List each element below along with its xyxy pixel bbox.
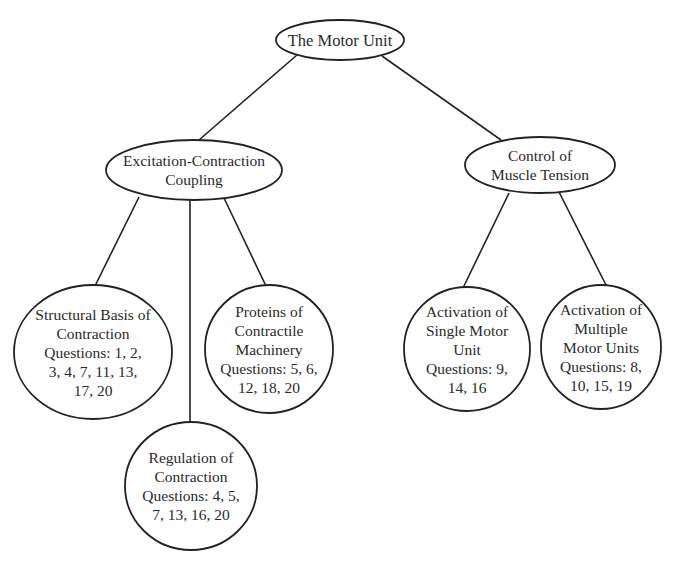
node-proteins-line-2: Contractile <box>235 321 304 340</box>
node-multiple-line-2: Multiple <box>574 319 627 338</box>
edge-motor-unit-to-ecc <box>199 55 297 140</box>
node-regulation-line-1: Regulation of <box>149 448 234 467</box>
node-structural-line-4: 3, 4, 7, 11, 13, <box>49 362 138 381</box>
node-structural-line-1: Structural Basis of <box>35 305 150 324</box>
node-motor-unit-line-1: The Motor Unit <box>288 31 393 50</box>
node-single-line-5: 14, 16 <box>448 378 487 397</box>
node-multiple-line-3: Motor Units <box>563 338 639 357</box>
node-regulation-of-contraction: Regulation of Contraction Questions: 4, … <box>142 448 239 524</box>
node-structural-basis-of-contraction: Structural Basis of Contraction Question… <box>35 305 150 400</box>
node-control-of-muscle-tension: Control of Muscle Tension <box>491 146 589 184</box>
node-proteins-line-4: Questions: 5, 6, <box>220 359 317 378</box>
node-single-line-2: Single Motor <box>426 321 508 340</box>
node-proteins-line-3: Machinery <box>235 340 302 359</box>
node-multiple-line-1: Activation of <box>560 300 642 319</box>
edge-control-to-multiple <box>559 192 607 287</box>
diagram-canvas <box>0 0 680 561</box>
edge-motor-unit-to-control <box>382 56 501 140</box>
edge-control-to-single <box>463 193 509 288</box>
node-multiple-line-5: 10, 15, 19 <box>570 376 632 395</box>
node-regulation-line-3: Questions: 4, 5, <box>142 486 239 505</box>
node-structural-line-2: Contraction <box>56 324 129 343</box>
concept-map: The Motor Unit Excitation-Contraction Co… <box>0 0 680 561</box>
node-structural-line-5: 17, 20 <box>74 381 113 400</box>
node-activation-of-multiple-motor-units: Activation of Multiple Motor Units Quest… <box>560 300 642 395</box>
node-proteins-of-contractile-machinery: Proteins of Contractile Machinery Questi… <box>220 302 317 397</box>
node-single-line-3: Unit <box>453 340 481 359</box>
edge-ecc-to-proteins <box>224 198 266 286</box>
node-regulation-line-2: Contraction <box>154 467 227 486</box>
node-ecc-line-1: Excitation-Contraction <box>123 151 265 170</box>
node-excitation-contraction-coupling: Excitation-Contraction Coupling <box>123 151 265 189</box>
node-control-line-2: Muscle Tension <box>491 165 589 184</box>
node-control-line-1: Control of <box>508 146 572 165</box>
node-structural-line-3: Questions: 1, 2, <box>44 343 141 362</box>
node-proteins-line-1: Proteins of <box>235 302 303 321</box>
node-single-line-4: Questions: 9, <box>426 359 508 378</box>
node-multiple-line-4: Questions: 8, <box>560 357 642 376</box>
node-single-line-1: Activation of <box>426 302 508 321</box>
node-regulation-line-4: 7, 13, 16, 20 <box>152 505 230 524</box>
node-motor-unit: The Motor Unit <box>288 31 393 50</box>
node-activation-of-single-motor-unit: Activation of Single Motor Unit Question… <box>426 302 508 397</box>
node-ecc-line-2: Coupling <box>165 170 223 189</box>
edge-ecc-to-structural <box>95 197 139 286</box>
node-proteins-line-5: 12, 18, 20 <box>238 378 300 397</box>
